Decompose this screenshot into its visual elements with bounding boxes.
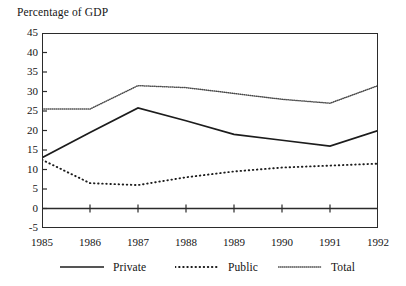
chart-legend: PrivatePublicTotal bbox=[0, 258, 406, 278]
y-axis-tick-label: 25 bbox=[0, 104, 38, 116]
chart-title: Percentage of GDP bbox=[17, 6, 108, 18]
chart-figure: Percentage of GDP 454035302520151050-5 1… bbox=[0, 0, 406, 286]
plot-area bbox=[42, 33, 378, 228]
legend-label: Private bbox=[113, 261, 146, 273]
legend-item-public[interactable]: Public bbox=[175, 258, 258, 276]
x-axis-tick-label: 1991 bbox=[307, 236, 353, 248]
legend-swatch-public bbox=[175, 261, 219, 273]
legend-label: Total bbox=[331, 261, 355, 273]
x-axis-tick-label: 1989 bbox=[211, 236, 257, 248]
y-axis-tick-label: 20 bbox=[0, 124, 38, 136]
x-axis-tick-label: 1986 bbox=[67, 236, 113, 248]
y-axis-tick-label: 40 bbox=[0, 46, 38, 58]
x-axis-tick-label: 1987 bbox=[115, 236, 161, 248]
plot-frame bbox=[42, 33, 378, 228]
y-axis-tick-label: 15 bbox=[0, 143, 38, 155]
legend-label: Public bbox=[228, 261, 258, 273]
y-axis-tick-label: 10 bbox=[0, 163, 38, 175]
legend-item-private[interactable]: Private bbox=[60, 258, 146, 276]
legend-item-total[interactable]: Total bbox=[278, 258, 355, 276]
legend-swatch-private bbox=[60, 261, 104, 273]
y-axis-tick-label: 35 bbox=[0, 65, 38, 77]
y-axis-tick-label: -5 bbox=[0, 221, 38, 233]
x-axis-tick-label: 1988 bbox=[163, 236, 209, 248]
x-axis-tick-label: 1990 bbox=[259, 236, 305, 248]
y-axis-tick-label: 0 bbox=[0, 202, 38, 214]
y-axis-tick-label: 45 bbox=[0, 26, 38, 38]
y-axis-tick-label: 30 bbox=[0, 85, 38, 97]
legend-swatch-total bbox=[278, 261, 322, 273]
x-axis-tick-label: 1992 bbox=[355, 236, 401, 248]
y-axis-tick-label: 5 bbox=[0, 182, 38, 194]
x-axis-tick-label: 1985 bbox=[19, 236, 65, 248]
